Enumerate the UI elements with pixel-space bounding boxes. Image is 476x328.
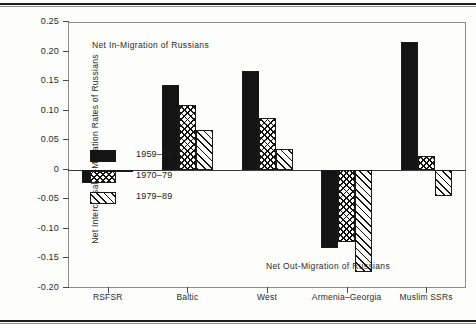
y-tick-label: -0.10 <box>13 223 59 233</box>
y-tick-mark <box>63 51 69 52</box>
x-axis-label-rsfsr: RSFSR <box>93 292 123 302</box>
bar <box>321 170 338 249</box>
page-rule-bottom-thin <box>0 323 476 324</box>
y-tick-label: -0.05 <box>13 193 59 203</box>
bar <box>338 170 355 242</box>
y-tick-label: -0.15 <box>13 252 59 262</box>
legend-swatch-solid-black <box>90 150 116 162</box>
bar <box>435 170 452 197</box>
x-axis-label-armenia-georgia: Armenia–Georgia <box>312 292 382 302</box>
page-rule-bottom <box>0 320 476 322</box>
y-tick-mark <box>63 110 69 111</box>
bar <box>116 170 133 172</box>
bar <box>259 118 276 170</box>
y-tick-mark <box>63 21 69 22</box>
y-tick-label: 0.15 <box>13 75 59 85</box>
y-tick-mark <box>63 80 69 81</box>
x-axis-label-muslim-ssrs: Muslim SSRs <box>400 292 453 302</box>
y-tick-mark <box>63 198 69 199</box>
y-tick-mark <box>63 287 69 288</box>
annotation-net-in-migration: Net In-Migration of Russians <box>92 40 209 50</box>
bar <box>196 130 213 170</box>
x-axis-label-west: West <box>257 292 277 302</box>
y-axis-title: Net Intercensal In-Migration Rates of Ru… <box>90 24 100 274</box>
y-tick-mark <box>63 139 69 140</box>
annotation-net-out-migration: Net Out-Migration of Russians <box>266 261 390 271</box>
bar <box>401 42 418 170</box>
y-tick-label: -0.20 <box>13 282 59 292</box>
bar <box>355 170 372 272</box>
y-tick-mark <box>63 228 69 229</box>
y-tick-label: 0.20 <box>13 46 59 56</box>
page-rule-top <box>0 3 476 5</box>
legend-label: 1970–79 <box>136 170 172 180</box>
page-rule-top-thin <box>0 6 476 7</box>
legend-label: 1959–70 <box>136 149 172 159</box>
bar <box>179 105 196 170</box>
y-tick-label: 0.05 <box>13 134 59 144</box>
y-tick-label: 0.10 <box>13 105 59 115</box>
y-tick-mark <box>63 257 69 258</box>
x-axis-label-baltic: Baltic <box>176 292 198 302</box>
bar <box>276 149 293 170</box>
plot-area: Net Intercensal In-Migration Rates of Ru… <box>68 22 466 288</box>
bar <box>418 156 435 170</box>
y-tick-label: 0 <box>13 164 59 174</box>
legend-label: 1979–89 <box>136 191 172 201</box>
y-tick-label: 0.25 <box>13 16 59 26</box>
figure-page: Net Intercensal In-Migration Rates of Ru… <box>0 0 476 328</box>
legend-swatch-diagonal-hatch <box>90 192 116 204</box>
bar <box>242 71 259 170</box>
legend-swatch-cross-hatch <box>90 171 116 183</box>
